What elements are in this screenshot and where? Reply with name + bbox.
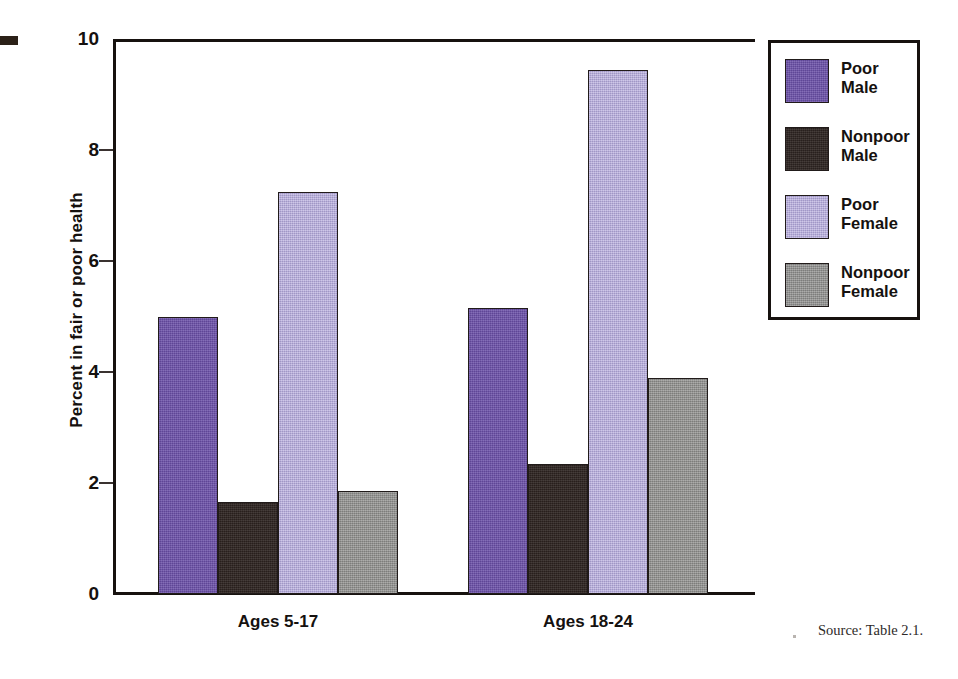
bar-nonpoor-female-ages-18-24	[648, 378, 708, 594]
legend-swatch-nonpoor-female	[785, 263, 829, 307]
source-note: Source: Table 2.1.	[818, 622, 923, 639]
plot-area	[113, 39, 755, 594]
bar-nonpoor-female-ages-5-17	[338, 491, 398, 594]
bar-poor-male-ages-18-24	[468, 308, 528, 594]
legend-item-nonpoor-male[interactable]: Nonpoor Male	[785, 127, 910, 171]
corner-mark-icon	[0, 36, 18, 45]
y-axis-tick	[99, 482, 113, 484]
y-axis-tick-label: 10	[53, 29, 99, 48]
bar-poor-female-ages-5-17	[278, 192, 338, 594]
y-axis-tick-label: 0	[53, 584, 99, 603]
y-axis-tick-label: 2	[53, 473, 99, 492]
y-axis-tick	[99, 371, 113, 373]
legend-label-poor-female: Poor Female	[841, 195, 898, 233]
bar-poor-female-ages-18-24	[588, 70, 648, 594]
y-axis-title: Percent in fair or poor health	[67, 150, 87, 470]
source-dot-icon	[793, 635, 796, 638]
legend-swatch-poor-female	[785, 195, 829, 239]
y-axis-tick-label: 4	[53, 362, 99, 381]
legend-label-nonpoor-female: Nonpoor Female	[841, 263, 910, 301]
bar-nonpoor-male-ages-18-24	[528, 464, 588, 594]
legend-item-poor-female[interactable]: Poor Female	[785, 195, 898, 239]
legend-item-poor-male[interactable]: Poor Male	[785, 59, 879, 103]
x-axis-label-ages-5-17: Ages 5-17	[148, 612, 408, 632]
y-axis-tick-label: 8	[53, 140, 99, 159]
legend-item-nonpoor-female[interactable]: Nonpoor Female	[785, 263, 910, 307]
legend-label-nonpoor-male: Nonpoor Male	[841, 127, 910, 165]
y-axis-tick	[99, 149, 113, 151]
legend-swatch-poor-male	[785, 59, 829, 103]
figure-bar-chart: Percent in fair or poor health 1086420 A…	[0, 0, 958, 679]
bar-nonpoor-male-ages-5-17	[218, 502, 278, 594]
x-axis-label-ages-18-24: Ages 18-24	[458, 612, 718, 632]
bar-poor-male-ages-5-17	[158, 317, 218, 595]
y-axis-tick	[99, 260, 113, 262]
legend-label-poor-male: Poor Male	[841, 59, 879, 97]
y-axis-tick-label: 6	[53, 251, 99, 270]
legend-swatch-nonpoor-male	[785, 127, 829, 171]
legend: Poor MaleNonpoor MalePoor FemaleNonpoor …	[768, 40, 920, 320]
